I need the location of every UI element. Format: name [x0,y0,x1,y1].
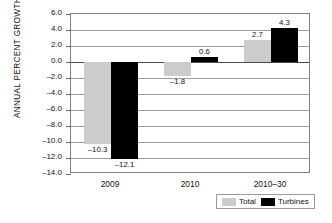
y-axis-tick [66,62,71,63]
bar-total-2 [244,40,271,62]
x-axis-tick-label: 2010 [150,179,230,189]
y-axis-tick-label: –10.0 [26,136,62,145]
bar-total-1 [164,62,191,76]
bar-value-label: 0.6 [182,47,227,56]
y-axis-tick-label: –14.0 [26,168,62,177]
legend-swatch-turbines-icon [261,198,275,206]
x-axis-tick-label: 2009 [70,179,150,189]
y-axis-title: ANNUAL PERCENT GROWTH [13,0,22,138]
bar-value-label: –12.1 [102,160,147,169]
y-axis-tick [66,78,71,79]
y-axis-tick [66,94,71,95]
legend-label-turbines: Turbines [278,197,309,206]
legend: Total Turbines [216,194,315,209]
bar-total-0 [84,62,111,144]
y-axis-tick-label: 2.0 [26,40,62,49]
y-axis-tick [66,158,71,159]
y-axis-tick [66,142,71,143]
y-axis-tick-label: 4.0 [26,24,62,33]
y-axis-tick [66,174,71,175]
legend-swatch-total-icon [222,198,236,206]
y-axis-tick-label: –8.0 [26,120,62,129]
bar-value-label: 4.3 [262,18,307,27]
y-axis-tick [66,14,71,15]
bar-chart: ANNUAL PERCENT GROWTH 6.04.02.00.0–2.0–4… [0,0,332,223]
bar-turbines-1 [191,57,218,62]
legend-item-turbines[interactable]: Turbines [261,197,309,206]
y-axis-tick [66,30,71,31]
y-axis-tick-label: 0.0 [26,56,62,65]
y-axis-tick [66,110,71,111]
bar-turbines-2 [271,28,298,62]
legend-item-total[interactable]: Total [222,197,256,206]
legend-label-total: Total [239,197,256,206]
y-axis-tick-label: 6.0 [26,8,62,17]
bar-value-label: –1.8 [155,77,200,86]
y-axis-tick [66,46,71,47]
y-axis-tick [66,126,71,127]
y-axis-tick-label: –12.0 [26,152,62,161]
x-axis-tick-label: 2010–30 [230,179,310,189]
plot-area: –10.3–12.1–1.80.62.74.3 [70,13,310,173]
bar-turbines-0 [111,62,138,159]
y-axis-tick-label: –2.0 [26,72,62,81]
y-axis-tick-label: –6.0 [26,104,62,113]
y-axis-tick-label: –4.0 [26,88,62,97]
